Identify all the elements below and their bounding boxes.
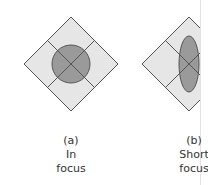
caption-b-line1: Short (164, 148, 208, 162)
caption-a-label: (a) (41, 134, 101, 148)
diagram-a-in-focus (24, 17, 118, 111)
caption-b: (b) Short focus (164, 134, 208, 176)
caption-b-label: (b) (164, 134, 208, 148)
caption-a-line2: focus (41, 162, 101, 176)
diagram-b-short-focus (142, 17, 208, 111)
caption-a-line1: In (41, 148, 101, 162)
caption-a: (a) In focus (41, 134, 101, 176)
caption-b-line2: focus (164, 162, 208, 176)
